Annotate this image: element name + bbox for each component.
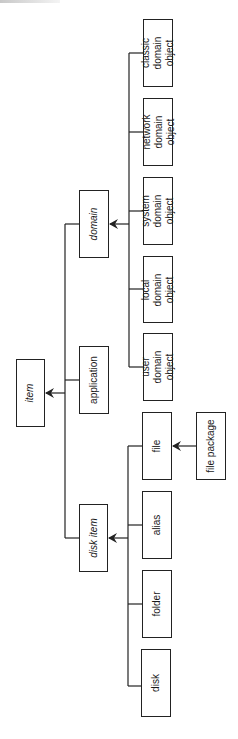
node-label: file package (205, 419, 217, 472)
node-label: user domain object (140, 351, 176, 384)
node-file: file (142, 412, 172, 480)
node-label: domain (88, 208, 100, 241)
node-folder: folder (142, 570, 172, 638)
node-application: application (79, 346, 109, 414)
node-label: classic domain object (140, 37, 176, 70)
node-label: application (88, 356, 100, 404)
node-label: folder (151, 591, 163, 616)
node-classic-domain-object: classic domain object (143, 19, 173, 87)
node-label: alias (151, 515, 163, 536)
node-user-domain-object: user domain object (143, 333, 173, 401)
node-label: system domain object (140, 195, 176, 228)
node-network-domain-object: network domain object (143, 98, 173, 166)
node-alias: alias (142, 491, 172, 559)
node-system-domain-object: system domain object (143, 177, 173, 245)
node-local-domain-object: local domain object (143, 256, 173, 323)
node-label: network domain object (140, 114, 176, 149)
node-domain: domain (79, 190, 109, 258)
node-label: file (151, 440, 163, 453)
node-file-package: file package (196, 412, 226, 480)
node-label: local domain object (140, 273, 176, 306)
node-disk: disk (141, 649, 171, 717)
node-label: disk (150, 674, 162, 692)
node-disk-item: disk item (79, 504, 108, 572)
node-label: disk item (88, 518, 100, 557)
node-label: item (25, 384, 37, 403)
node-item: item (16, 359, 45, 427)
